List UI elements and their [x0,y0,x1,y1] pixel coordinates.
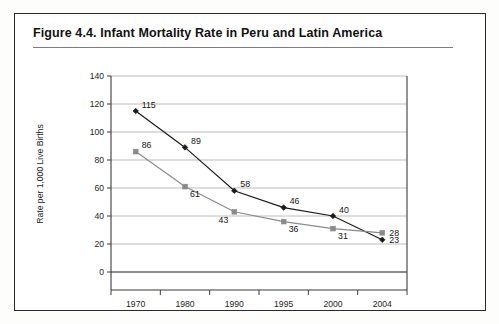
point-label-peru-1980: 89 [191,136,201,146]
y-tick-label-120: 120 [90,99,105,109]
point-label-peru-1970: 115 [142,100,156,110]
marker-latin-america-1990 [232,209,237,214]
y-tick-label-40: 40 [94,211,104,221]
y-tick-label-0: 0 [99,267,104,277]
x-tick-label-2004: 2004 [373,299,392,309]
series-line-latin-america [136,152,383,233]
point-label-peru-2000: 40 [339,205,349,215]
x-tick-label-1980: 1980 [175,299,194,309]
figure-card: Figure 4.4. Infant Mortality Rate in Per… [14,13,486,311]
figure-title: Figure 4.4. Infant Mortality Rate in Per… [33,26,463,40]
marker-latin-america-1995 [281,219,286,224]
point-label-peru-1990: 58 [240,179,250,189]
point-label-latin-america-2004: 28 [389,228,399,238]
title-divider [33,47,453,48]
marker-latin-america-1970 [133,149,138,154]
marker-latin-america-1980 [183,184,188,189]
marker-latin-america-2004 [380,230,385,235]
marker-peru-2004 [380,237,386,243]
y-tick-label-100: 100 [90,127,105,137]
marker-latin-america-2000 [331,226,336,231]
y-tick-label-140: 140 [90,71,105,81]
y-tick-label-20: 20 [94,239,104,249]
point-label-latin-america-1980: 61 [190,189,200,199]
point-label-peru-1995: 46 [290,196,300,206]
point-label-latin-america-1970: 86 [142,140,152,150]
x-tick-label-2000: 2000 [323,299,342,309]
marker-peru-1995 [281,205,287,211]
line-chart: 020406080100120140Rate per 1,000 Live Bi… [15,52,487,310]
chart-area: 020406080100120140Rate per 1,000 Live Bi… [15,52,487,310]
x-tick-label-1995: 1995 [274,299,293,309]
y-tick-label-60: 60 [94,183,104,193]
x-tick-label-1970: 1970 [126,299,145,309]
x-tick-label-1990: 1990 [225,299,244,309]
y-tick-label-80: 80 [94,155,104,165]
point-label-latin-america-1990: 43 [219,215,229,225]
y-axis-title: Rate per 1,000 Live Births [35,124,45,223]
point-label-latin-america-2000: 31 [338,231,348,241]
series-line-peru [136,111,383,240]
point-label-latin-america-1995: 36 [289,224,299,234]
marker-peru-2000 [330,213,336,219]
